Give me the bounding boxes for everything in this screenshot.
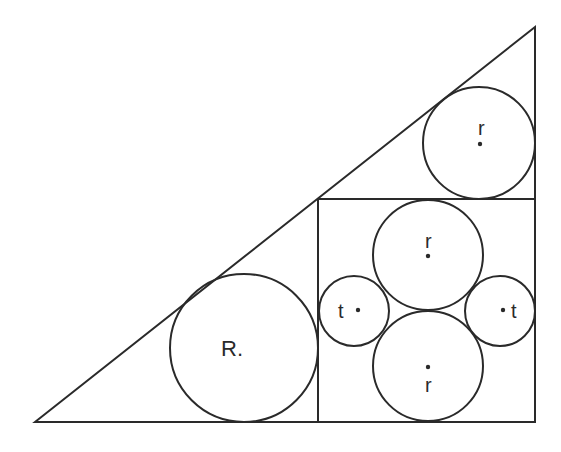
circle-r-square-bottom: r xyxy=(373,311,483,421)
circle-t-right: t xyxy=(465,276,535,346)
circle-r-square-top: r xyxy=(373,200,483,310)
circle-t-right-label: t xyxy=(511,300,517,322)
circle-R-label: R. xyxy=(221,336,243,361)
circle-R: R. xyxy=(170,274,318,422)
circle-R-outline xyxy=(170,274,318,422)
geometry-diagram: R. r r r t t xyxy=(0,0,561,452)
center-dot xyxy=(426,365,430,369)
right-triangle xyxy=(35,27,535,422)
circle-t-left-label: t xyxy=(338,300,344,322)
circle-r-corner-label: r xyxy=(478,117,485,139)
circle-r-square-top-label: r xyxy=(425,230,432,252)
circle-t-left: t xyxy=(319,276,389,346)
center-dot xyxy=(426,254,430,258)
center-dot xyxy=(478,142,482,146)
circle-r-corner: r xyxy=(423,87,535,199)
circle-t-left-outline xyxy=(319,276,389,346)
circle-t-right-outline xyxy=(465,276,535,346)
center-dot xyxy=(501,308,505,312)
center-dot xyxy=(356,308,360,312)
circle-r-square-bottom-label: r xyxy=(425,374,432,396)
